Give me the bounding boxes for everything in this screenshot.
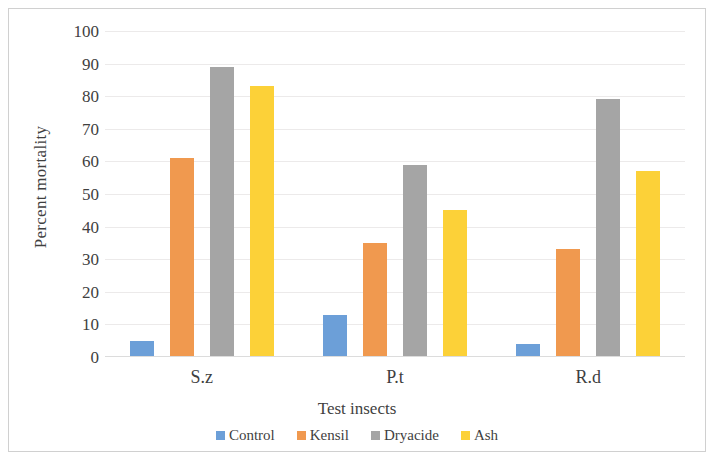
- y-axis-tick-label: 100: [53, 23, 99, 40]
- legend-label: Kensil: [310, 427, 349, 444]
- legend-swatch-icon: [461, 431, 470, 440]
- bar: [170, 158, 194, 357]
- y-axis-tick-label: 90: [53, 55, 99, 72]
- bar: [210, 67, 234, 357]
- legend-label: Control: [229, 427, 275, 444]
- chart-legend: ControlKensilDryacideAsh: [9, 427, 705, 444]
- legend-label: Ash: [474, 427, 498, 444]
- y-axis-title: Percent mortality: [31, 37, 51, 337]
- legend-swatch-icon: [371, 431, 380, 440]
- bar: [403, 165, 427, 357]
- x-axis-category-label: P.t: [386, 367, 404, 388]
- x-axis-category-label: S.z: [190, 367, 213, 388]
- y-axis-tick-labels: 0102030405060708090100: [53, 9, 99, 451]
- legend-item[interactable]: Kensil: [297, 427, 349, 444]
- bar-group: [105, 31, 298, 357]
- bar: [443, 210, 467, 357]
- legend-swatch-icon: [216, 431, 225, 440]
- legend-item[interactable]: Dryacide: [371, 427, 439, 444]
- x-axis-category-labels: S.zP.tR.d: [105, 367, 685, 397]
- bar-group: [298, 31, 491, 357]
- bar-group: [492, 31, 685, 357]
- x-axis-title: Test insects: [9, 399, 705, 419]
- y-axis-tick-label: 70: [53, 120, 99, 137]
- y-axis-tick-label: 0: [53, 349, 99, 366]
- bar-chart: Percent mortality 0102030405060708090100…: [9, 9, 705, 451]
- bar: [596, 99, 620, 357]
- bar: [556, 249, 580, 357]
- legend-item[interactable]: Control: [216, 427, 275, 444]
- plot-area: [105, 31, 685, 357]
- y-axis-tick-label: 20: [53, 283, 99, 300]
- y-axis-tick-label: 10: [53, 316, 99, 333]
- legend-swatch-icon: [297, 431, 306, 440]
- y-axis-tick-label: 50: [53, 186, 99, 203]
- y-axis-tick-label: 40: [53, 218, 99, 235]
- bar: [363, 243, 387, 357]
- bar: [636, 171, 660, 357]
- x-axis-category-label: R.d: [576, 367, 602, 388]
- bar: [250, 86, 274, 357]
- y-axis-tick-label: 80: [53, 88, 99, 105]
- y-axis-tick-label: 30: [53, 251, 99, 268]
- y-axis-tick-label: 60: [53, 153, 99, 170]
- chart-figure: Percent mortality 0102030405060708090100…: [8, 8, 706, 452]
- legend-label: Dryacide: [384, 427, 439, 444]
- bar: [323, 315, 347, 357]
- x-axis-line: [105, 356, 685, 357]
- legend-item[interactable]: Ash: [461, 427, 498, 444]
- bar: [130, 341, 154, 357]
